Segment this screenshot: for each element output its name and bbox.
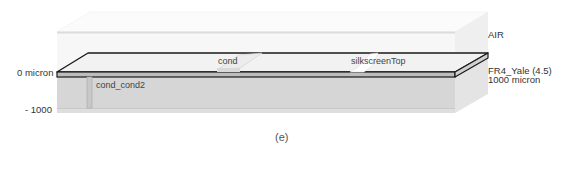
label-cond-cond2: cond_cond2 [96,80,145,90]
axis-label-bottom: - 1000 [25,105,52,115]
label-air: AIR [488,30,504,40]
axis-label-top: 0 micron [17,68,53,78]
board-top-plane [57,53,488,72]
label-cond: cond [218,56,238,66]
substrate-bottom-band [57,109,455,113]
cond-trace-front [217,68,240,72]
figure-caption: (e) [275,131,288,143]
label-fr4-thickness: 1000 micron [488,75,540,85]
label-silkscreen-top: silkscreenTop [351,56,406,66]
air-top-face [57,12,488,32]
stackup-3d-diagram [0,0,571,169]
board-front-edge [57,72,455,77]
via-cond-cond2 [87,77,92,108]
